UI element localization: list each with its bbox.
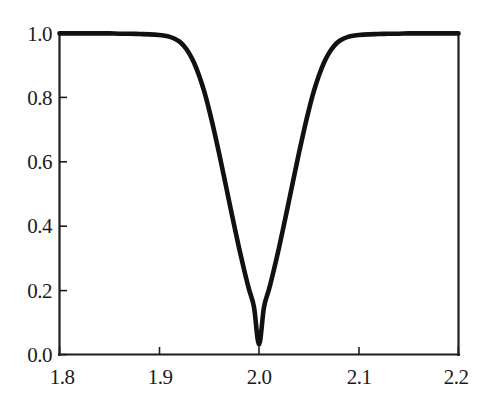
x-tick-marks — [60, 347, 459, 355]
y-tick-label-0.0: 0.0 — [27, 343, 52, 367]
resonance-dip-curve — [60, 33, 459, 344]
x-tick-label-2.0: 2.0 — [247, 365, 272, 389]
y-tick-label-0.6: 0.6 — [27, 150, 52, 174]
x-tick-label-1.9: 1.9 — [148, 365, 173, 389]
y-tick-marks — [60, 33, 68, 354]
plot-canvas: 1.0 0.8 0.6 0.4 0.2 0.0 1.8 1.9 2.0 2.1 … — [0, 0, 495, 412]
x-tick-label-1.8: 1.8 — [50, 365, 75, 389]
y-tick-label-0.2: 0.2 — [27, 279, 52, 303]
y-tick-label-0.8: 0.8 — [27, 86, 52, 110]
chart-figure: 1.0 0.8 0.6 0.4 0.2 0.0 1.8 1.9 2.0 2.1 … — [0, 0, 495, 412]
y-tick-label-0.4: 0.4 — [27, 214, 53, 238]
axes-frame — [59, 33, 459, 355]
x-tick-labels: 1.8 1.9 2.0 2.1 2.2 — [50, 365, 469, 389]
x-tick-label-2.2: 2.2 — [444, 365, 469, 389]
y-tick-label-1.0: 1.0 — [27, 22, 52, 46]
x-tick-label-2.1: 2.1 — [347, 365, 372, 389]
y-tick-labels: 1.0 0.8 0.6 0.4 0.2 0.0 — [27, 22, 53, 367]
